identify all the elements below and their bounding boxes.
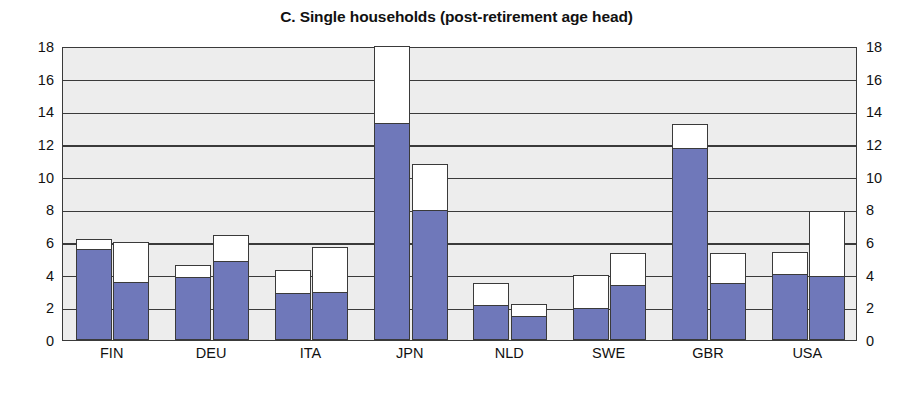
tick-label-right-4: 4 bbox=[866, 269, 906, 284]
bar-gbr-1 bbox=[672, 124, 708, 340]
category-label-fin: FIN bbox=[62, 346, 161, 361]
category-label-gbr: GBR bbox=[658, 346, 757, 361]
tick-label-right-6: 6 bbox=[866, 236, 906, 251]
x-axis-labels: FINDEUITAJPNNLDSWEGBRUSA bbox=[62, 346, 857, 372]
bar-fill-jpn-1 bbox=[375, 123, 409, 339]
bar-fill-swe-2 bbox=[611, 285, 645, 339]
bar-fill-usa-1 bbox=[773, 274, 807, 339]
bar-fill-gbr-1 bbox=[673, 148, 707, 339]
bar-ita-2 bbox=[312, 247, 348, 340]
chart-title: C. Single households (post-retirement ag… bbox=[0, 8, 913, 26]
bar-ita-1 bbox=[275, 270, 311, 340]
tick-label-right-8: 8 bbox=[866, 203, 906, 218]
bar-fill-fin-1 bbox=[77, 249, 111, 339]
tick-label-left-18: 18 bbox=[18, 40, 54, 55]
y-axis-right: 024681012141618 bbox=[866, 47, 906, 341]
gridline-12 bbox=[63, 145, 856, 147]
bar-fill-nld-1 bbox=[474, 305, 508, 339]
bar-gbr-2 bbox=[710, 253, 746, 340]
tick-label-left-2: 2 bbox=[18, 301, 54, 316]
bar-fin-2 bbox=[113, 242, 149, 340]
tick-label-right-14: 14 bbox=[866, 105, 906, 120]
bar-fill-swe-1 bbox=[574, 308, 608, 339]
gridline-10 bbox=[63, 178, 856, 180]
bar-fill-deu-2 bbox=[214, 261, 248, 339]
gridline-14 bbox=[63, 113, 856, 115]
tick-label-left-16: 16 bbox=[18, 73, 54, 88]
tick-label-left-0: 0 bbox=[18, 334, 54, 349]
bar-usa-2 bbox=[809, 211, 845, 340]
tick-label-right-2: 2 bbox=[866, 301, 906, 316]
category-label-usa: USA bbox=[758, 346, 857, 361]
plot-area bbox=[62, 47, 857, 341]
chart-container: C. Single households (post-retirement ag… bbox=[0, 0, 913, 394]
tick-label-right-18: 18 bbox=[866, 40, 906, 55]
tick-label-left-8: 8 bbox=[18, 203, 54, 218]
category-label-deu: DEU bbox=[161, 346, 260, 361]
tick-label-left-12: 12 bbox=[18, 138, 54, 153]
gridline-16 bbox=[63, 80, 856, 82]
bar-fill-deu-1 bbox=[176, 277, 210, 339]
bar-fill-ita-2 bbox=[313, 292, 347, 339]
bar-usa-1 bbox=[772, 252, 808, 340]
tick-label-left-4: 4 bbox=[18, 269, 54, 284]
bar-fill-ita-1 bbox=[276, 293, 310, 339]
category-label-swe: SWE bbox=[559, 346, 658, 361]
bar-swe-2 bbox=[610, 253, 646, 340]
bar-deu-1 bbox=[175, 265, 211, 340]
gridline-8 bbox=[63, 211, 856, 213]
bar-jpn-2 bbox=[412, 164, 448, 340]
tick-label-right-12: 12 bbox=[866, 138, 906, 153]
bar-fill-fin-2 bbox=[114, 282, 148, 339]
bar-fill-gbr-2 bbox=[711, 283, 745, 339]
tick-label-right-0: 0 bbox=[866, 334, 906, 349]
bar-jpn-1 bbox=[374, 46, 410, 340]
bar-nld-1 bbox=[473, 283, 509, 340]
gridline-6 bbox=[63, 243, 856, 245]
bar-fill-jpn-2 bbox=[413, 210, 447, 339]
category-label-ita: ITA bbox=[261, 346, 360, 361]
category-label-nld: NLD bbox=[460, 346, 559, 361]
tick-label-right-10: 10 bbox=[866, 171, 906, 186]
y-axis-left: 024681012141618 bbox=[18, 47, 54, 341]
bar-fill-nld-2 bbox=[512, 316, 546, 339]
category-label-jpn: JPN bbox=[360, 346, 459, 361]
tick-label-left-6: 6 bbox=[18, 236, 54, 251]
tick-label-left-10: 10 bbox=[18, 171, 54, 186]
bar-swe-1 bbox=[573, 275, 609, 340]
tick-label-right-16: 16 bbox=[866, 73, 906, 88]
tick-label-left-14: 14 bbox=[18, 105, 54, 120]
bar-fin-1 bbox=[76, 239, 112, 340]
bar-fill-usa-2 bbox=[810, 276, 844, 339]
bar-deu-2 bbox=[213, 235, 249, 340]
bar-nld-2 bbox=[511, 304, 547, 340]
